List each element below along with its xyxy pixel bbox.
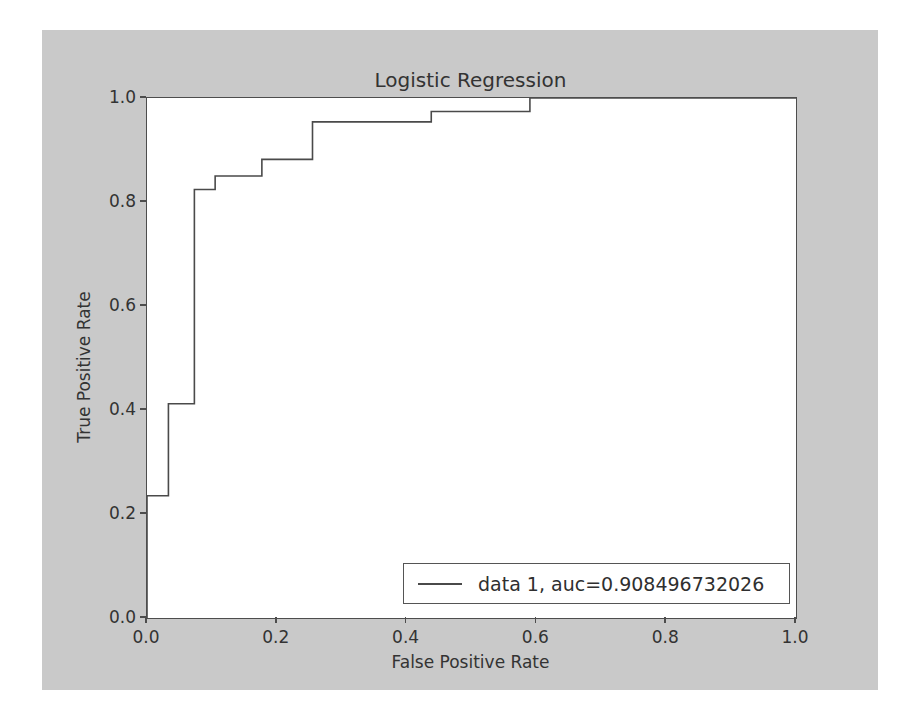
y-tick-label: 0.2 [94,503,136,523]
x-tick-label: 0.2 [262,627,289,647]
x-tick-label: 0.6 [522,627,549,647]
legend-box: data 1, auc=0.908496732026 [403,563,790,604]
y-tick-mark [140,96,146,98]
x-axis-label: False Positive Rate [146,652,795,672]
chart-title: Logistic Regression [146,68,795,92]
y-tick-label: 0.0 [94,607,136,627]
roc-curve-svg [147,98,796,618]
y-tick-label: 0.6 [94,295,136,315]
y-axis-label: True Positive Rate [74,217,94,517]
x-tick-mark [794,617,796,623]
x-tick-label: 0.8 [652,627,679,647]
roc-curve-line [147,98,796,618]
x-tick-mark [275,617,277,623]
x-tick-label: 1.0 [781,627,808,647]
y-tick-mark [140,408,146,410]
y-tick-mark [140,200,146,202]
x-tick-mark [405,617,407,623]
y-tick-mark [140,616,146,618]
x-tick-mark [145,617,147,623]
legend-entry-label: data 1, auc=0.908496732026 [478,573,764,595]
y-tick-label: 1.0 [94,87,136,107]
y-tick-mark [140,512,146,514]
figure-canvas: Logistic Regression 0.00.20.40.60.81.00.… [42,30,878,690]
y-tick-label: 0.8 [94,191,136,211]
y-tick-label: 0.4 [94,399,136,419]
plot-axes-frame [146,97,797,619]
y-tick-mark [140,304,146,306]
plot-surface [147,98,796,618]
x-tick-label: 0.4 [392,627,419,647]
x-tick-mark [664,617,666,623]
legend-line-swatch [418,583,462,585]
x-tick-mark [535,617,537,623]
x-tick-label: 0.0 [132,627,159,647]
